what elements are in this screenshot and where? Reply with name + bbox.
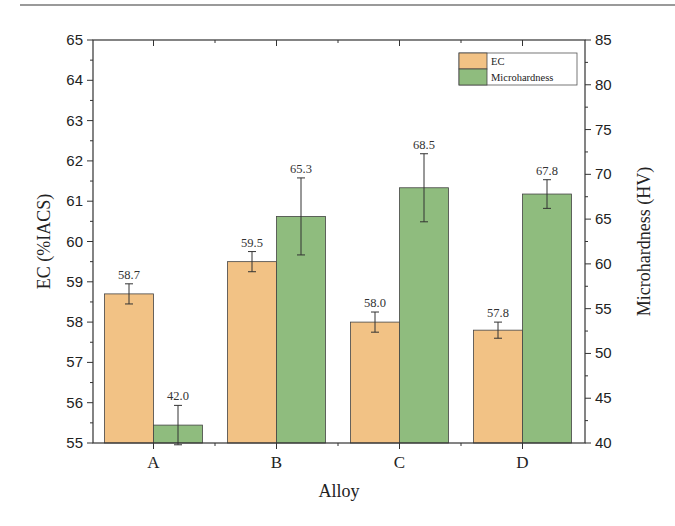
x-axis-label: Alloy: [318, 481, 359, 501]
value-label: 59.5: [241, 236, 263, 250]
y-tick-label: 56: [66, 394, 83, 411]
legend-label-ec: EC: [491, 56, 504, 67]
y-axis-label: EC (%IACS): [34, 194, 55, 290]
y2-tick-label: 75: [595, 121, 612, 138]
x-tick-label: C: [394, 453, 405, 472]
y-tick-label: 65: [66, 31, 83, 48]
y2-tick-label: 40: [595, 434, 612, 451]
value-label: 65.3: [290, 162, 312, 176]
bar-ec-D: [474, 330, 523, 443]
y2-axis-label: Microhardness (HV): [634, 167, 655, 316]
value-label: 58.0: [364, 296, 386, 310]
legend-label-microhardness: Microhardness: [491, 72, 553, 83]
y2-tick-label: 55: [595, 300, 612, 317]
bar-ec-B: [228, 262, 277, 443]
y-tick-label: 61: [66, 192, 83, 209]
bar-ec-C: [351, 322, 400, 443]
y-tick-label: 55: [66, 434, 83, 451]
legend-swatch-microhardness: [459, 69, 487, 85]
y-tick-label: 57: [66, 353, 83, 370]
y2-tick-label: 70: [595, 165, 612, 182]
x-tick-label: A: [147, 453, 160, 472]
y-tick-label: 58: [66, 313, 83, 330]
bar-ec-A: [105, 294, 154, 443]
bar-microhardness-C: [400, 188, 449, 443]
y-tick-label: 59: [66, 273, 83, 290]
x-tick-label: D: [516, 453, 528, 472]
y-tick-label: 64: [66, 71, 83, 88]
y2-tick-label: 60: [595, 255, 612, 272]
value-label: 68.5: [413, 138, 435, 152]
value-label: 58.7: [118, 268, 140, 282]
y2-tick-label: 85: [595, 31, 612, 48]
y2-tick-label: 50: [595, 344, 612, 361]
value-label: 57.8: [487, 306, 509, 320]
y-tick-label: 63: [66, 112, 83, 129]
legend-swatch-ec: [459, 53, 487, 69]
x-tick-label: B: [271, 453, 282, 472]
y2-tick-label: 80: [595, 76, 612, 93]
y2-tick-label: 65: [595, 210, 612, 227]
y-tick-label: 62: [66, 152, 83, 169]
value-label: 67.8: [536, 164, 558, 178]
bar-microhardness-D: [523, 194, 572, 443]
y2-tick-label: 45: [595, 389, 612, 406]
y-tick-label: 60: [66, 233, 83, 250]
value-label: 42.0: [167, 389, 189, 403]
bar-chart: 58.742.059.565.358.068.557.867.855565758…: [0, 0, 675, 526]
